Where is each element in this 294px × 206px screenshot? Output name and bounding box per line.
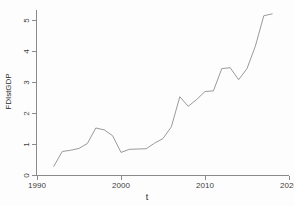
x-tick-label: 2000 bbox=[101, 181, 141, 190]
x-axis-line bbox=[36, 175, 289, 176]
y-tick-mark bbox=[32, 113, 36, 114]
x-tick-label: 2020 bbox=[269, 181, 294, 190]
y-axis-line bbox=[36, 10, 37, 176]
y-tick-label-container: 1 bbox=[22, 140, 31, 149]
y-tick-mark bbox=[32, 20, 36, 21]
y-tick-label: 4 bbox=[22, 47, 31, 56]
x-tick-mark bbox=[289, 176, 290, 180]
y-tick-label: 1 bbox=[22, 140, 31, 149]
x-axis-title: t bbox=[0, 192, 294, 202]
x-tick-mark bbox=[37, 176, 38, 180]
x-tick-label: 1990 bbox=[17, 181, 57, 190]
y-tick-mark bbox=[32, 175, 36, 176]
plot-area bbox=[37, 8, 289, 175]
y-tick-label-container: 5 bbox=[22, 16, 31, 25]
x-tick-mark bbox=[121, 176, 122, 180]
y-tick-label: 5 bbox=[22, 16, 31, 25]
x-tick-mark bbox=[205, 176, 206, 180]
y-tick-label-container: 0 bbox=[22, 171, 31, 180]
y-tick-label: 0 bbox=[22, 171, 31, 180]
y-tick-label: 3 bbox=[22, 78, 31, 87]
y-axis-title-container: FDIstGDP bbox=[2, 60, 13, 122]
chart-figure: 012345 1990200020102020 FDIstGDP t bbox=[0, 0, 294, 206]
y-axis-title: FDIstGDP bbox=[3, 61, 14, 123]
y-tick-label-container: 2 bbox=[22, 109, 31, 118]
y-tick-mark bbox=[32, 51, 36, 52]
y-tick-mark bbox=[32, 144, 36, 145]
series-line-fdistgdp bbox=[37, 8, 289, 175]
y-tick-mark bbox=[32, 82, 36, 83]
y-tick-label-container: 4 bbox=[22, 47, 31, 56]
x-tick-label: 2010 bbox=[185, 181, 225, 190]
y-tick-label-container: 3 bbox=[22, 78, 31, 87]
y-tick-label: 2 bbox=[22, 109, 31, 118]
